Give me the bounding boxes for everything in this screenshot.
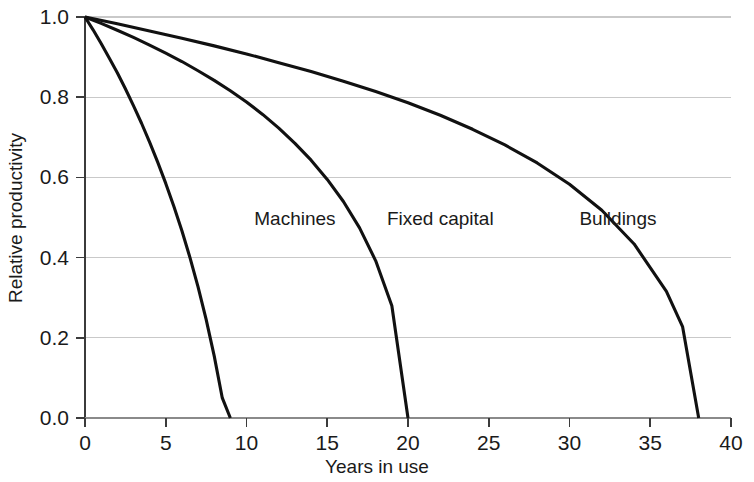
y-tick-label-0.6: 0.6 <box>40 165 69 188</box>
x-tick-label-35: 35 <box>639 431 662 454</box>
y-tick-label-0: 0.0 <box>40 406 69 429</box>
y-tick-label-0.8: 0.8 <box>40 85 69 108</box>
x-tick-label-5: 5 <box>160 431 172 454</box>
series-label-machines: Machines <box>254 208 335 229</box>
x-tick-label-40: 40 <box>719 431 742 454</box>
x-tick-label-15: 15 <box>316 431 339 454</box>
x-tick-label-20: 20 <box>396 431 419 454</box>
y-axis-title: Relative productivity <box>5 132 26 303</box>
x-tick-label-0: 0 <box>79 431 91 454</box>
x-tick-label-10: 10 <box>235 431 258 454</box>
y-tick-label-0.4: 0.4 <box>40 246 70 269</box>
series-label-buildings: Buildings <box>579 208 656 229</box>
chart-container: 0510152025303540 0.00.20.40.60.81.0 Mach… <box>0 0 754 482</box>
series-label-fixed-capital: Fixed capital <box>387 208 494 229</box>
y-tick-label-0.2: 0.2 <box>40 326 69 349</box>
chart-background <box>0 0 754 482</box>
y-tick-label-1: 1.0 <box>40 5 69 28</box>
x-tick-label-25: 25 <box>477 431 500 454</box>
series-labels: MachinesFixed capitalBuildings <box>254 208 656 229</box>
x-tick-label-30: 30 <box>558 431 581 454</box>
productivity-decay-chart: 0510152025303540 0.00.20.40.60.81.0 Mach… <box>0 0 754 482</box>
x-axis-title: Years in use <box>325 456 429 477</box>
